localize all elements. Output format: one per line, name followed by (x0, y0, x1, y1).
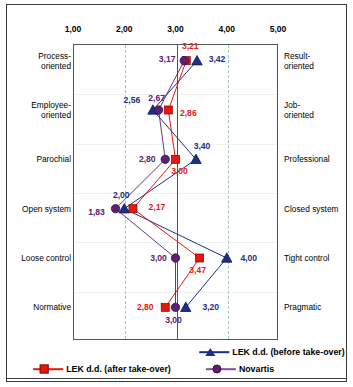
legend-item-before[interactable]: LEK d.d. (before take-over) (199, 347, 344, 357)
legend-label-novartis: Novartis (239, 364, 274, 374)
legend-label-before: LEK d.d. (before take-over) (232, 347, 344, 357)
value-label-s2-r4: 2,17 (149, 202, 166, 212)
row-label-left-3: Parochial (36, 154, 71, 164)
legend-item-novartis[interactable]: Novartis (206, 364, 274, 374)
value-label-s2-r3: 3,00 (171, 166, 188, 176)
plot-area (73, 44, 278, 340)
row-label-right-5: Tight control (284, 253, 329, 263)
gridline-horizontal (74, 144, 277, 145)
value-label-s3-r4: 1,83 (88, 207, 105, 217)
row-label-right-4: Closed system (284, 204, 338, 214)
x-tick-1: 1,00 (65, 24, 82, 34)
value-label-s2-r6: 2,80 (137, 302, 154, 312)
value-label-s3-r1: 3,17 (159, 54, 176, 64)
row-label-right-3: Professional (284, 154, 330, 164)
row-label-left-5: Loose control (21, 253, 71, 263)
legend-item-after[interactable]: LEK d.d. (after take-over) (33, 364, 171, 374)
value-label-s1-r6: 3,20 (202, 302, 219, 312)
chart-figure: 1,002,003,004,005,00 Process-orientedRes… (0, 0, 353, 387)
row-label-right-2: Job-oriented (284, 100, 314, 120)
row-label-left-6: Normative (33, 302, 71, 312)
value-label-s2-r1: 3,21 (182, 41, 199, 51)
gridline-horizontal (74, 193, 277, 194)
x-tick-3: 3,00 (167, 24, 184, 34)
gridline-horizontal (74, 242, 277, 243)
value-label-s1-r4: 2,00 (113, 190, 130, 200)
value-label-s1-r5: 4,00 (240, 253, 257, 263)
value-label-s3-r6: 3,00 (165, 315, 182, 325)
x-tick-5: 5,00 (270, 24, 287, 34)
x-tick-2: 2,00 (116, 24, 133, 34)
value-label-s3-r5: 3,00 (150, 253, 167, 263)
square-icon (40, 365, 49, 374)
value-label-s3-r2: 2,67 (148, 93, 165, 103)
gridline-horizontal (74, 94, 277, 95)
gridline-horizontal (74, 292, 277, 293)
value-label-s1-r1: 3,42 (209, 54, 226, 64)
chart-legend: LEK d.d. (before take-over) LEK d.d. (af… (7, 344, 346, 381)
value-label-s1-r2: 2,56 (124, 95, 141, 105)
gridline-4 (228, 45, 229, 339)
row-label-left-1: Process-oriented (38, 51, 71, 71)
x-tick-4: 4,00 (218, 24, 235, 34)
gridline-3 (177, 45, 178, 339)
legend-label-after: LEK d.d. (after take-over) (66, 364, 171, 374)
row-label-left-4: Open system (22, 204, 71, 214)
row-label-right-1: Result-oriented (284, 51, 314, 71)
row-label-right-6: Pragmatic (284, 302, 321, 312)
row-label-left-2: Employee-oriented (31, 100, 71, 120)
value-label-s2-r5: 3,47 (189, 265, 206, 275)
value-label-s1-r3: 3,40 (194, 141, 211, 151)
circle-icon (212, 365, 221, 374)
value-label-s2-r2: 2,86 (180, 108, 197, 118)
triangle-icon (205, 348, 215, 356)
value-label-s3-r3: 2,80 (139, 154, 156, 164)
legend-separator (7, 378, 346, 379)
